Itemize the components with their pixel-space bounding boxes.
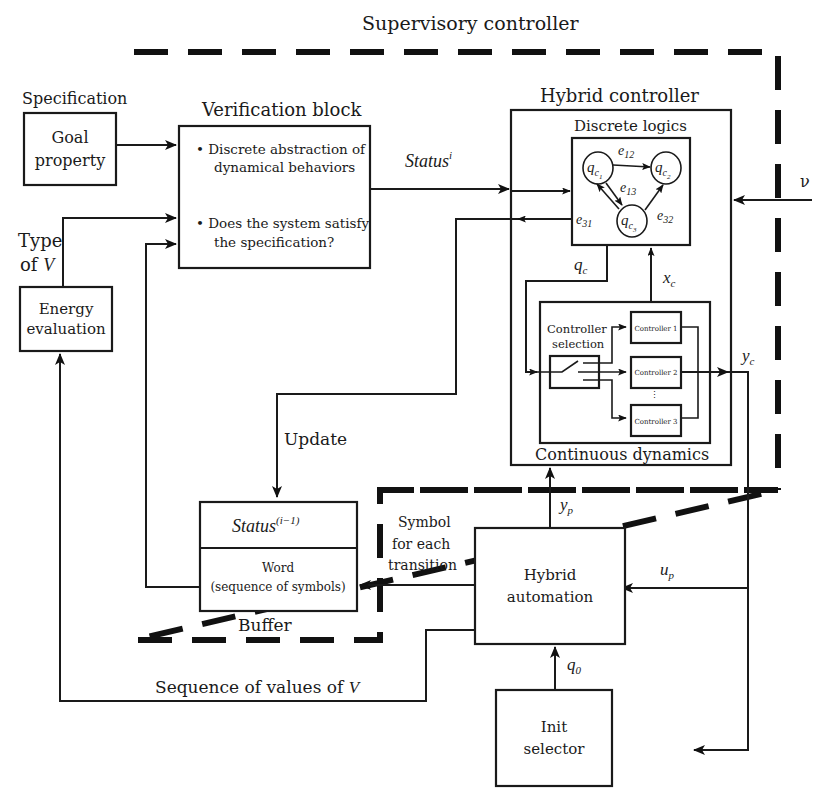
update-label: Update <box>284 429 347 449</box>
supervisory-control-diagram: Supervisory controller Specification Goa… <box>0 0 834 812</box>
word-description: (sequence of symbols) <box>210 580 345 594</box>
type-of-v-line1: Type <box>18 230 62 251</box>
hybrid-automation-block <box>475 528 625 644</box>
status-i-label: Statusi <box>405 149 452 171</box>
controller-1-label: Controller 1 <box>634 325 677 333</box>
yc-label: yc <box>740 346 755 367</box>
discrete-logics-title: Discrete logics <box>574 117 687 135</box>
buffer-to-verification-arrow <box>146 244 200 587</box>
goal-property-line2: property <box>35 151 105 170</box>
controller-selection-line1: Controller <box>547 322 607 336</box>
verification-bullet-1-line1: • Discrete abstraction of <box>196 141 366 157</box>
energy-evaluation-block <box>20 287 112 351</box>
init-selector-line2: selector <box>524 740 586 758</box>
goal-property-block <box>24 113 116 185</box>
verification-bullet-1-line2: dynamical behaviors <box>214 159 355 175</box>
controller-ellipsis: ⋮ <box>650 390 659 400</box>
symbol-line3: transition <box>388 557 457 573</box>
energy-evaluation-line1: Energy <box>39 300 94 318</box>
nu-label: ν <box>800 172 810 191</box>
hybrid-automation-line1: Hybrid <box>524 566 577 584</box>
symbol-line1: Symbol <box>398 514 451 530</box>
hybrid-controller-title: Hybrid controller <box>540 85 699 106</box>
hybrid-automation-line2: automation <box>507 588 594 606</box>
q0-label: q0 <box>567 655 582 676</box>
verification-block-title: Verification block <box>201 99 363 120</box>
init-selector-block <box>496 690 612 786</box>
symbol-line2: for each <box>392 536 450 552</box>
controller-2-label: Controller 2 <box>634 369 677 377</box>
continuous-dynamics-title: Continuous dynamics <box>535 445 709 464</box>
supervisory-controller-title: Supervisory controller <box>362 12 579 34</box>
goal-property-line1: Goal <box>51 128 88 147</box>
verification-bullet-2-line1: • Does the system satisfy <box>196 215 369 231</box>
type-of-v-arrow <box>63 218 176 286</box>
energy-evaluation-line2: evaluation <box>26 320 106 338</box>
type-of-v-line2: of V <box>20 254 56 275</box>
specification-label: Specification <box>22 89 127 108</box>
controller-selection-line2: selection <box>552 337 605 351</box>
word-label: Word <box>262 561 294 575</box>
buffer-label: Buffer <box>238 615 293 635</box>
sequence-of-values-label: Sequence of values of V <box>155 677 362 697</box>
verification-bullet-2-line2: the specification? <box>214 234 334 250</box>
controller-3-label: Controller 3 <box>634 418 677 426</box>
init-selector-line1: Init <box>541 718 567 736</box>
up-label: up <box>660 560 675 581</box>
yp-label: yp <box>558 495 574 516</box>
